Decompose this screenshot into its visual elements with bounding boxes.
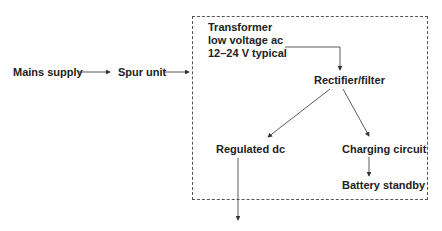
mains-supply-label: Mains supply xyxy=(13,66,83,78)
battery-standby-label: Battery standby xyxy=(342,179,425,191)
spur-unit-label: Spur unit xyxy=(118,66,166,78)
rectifier-filter-label: Rectifier/filter xyxy=(314,74,385,86)
regulated-dc-label: Regulated dc xyxy=(216,143,285,155)
transformer-label-line3: 12–24 V typical xyxy=(208,47,287,59)
transformer-label-line1: Transformer xyxy=(208,21,272,33)
transformer-label-line2: low voltage ac xyxy=(208,34,283,46)
charging-circuit-label: Charging circuit xyxy=(342,143,426,155)
arrow-rectifier-to-charging xyxy=(343,89,369,136)
arrow-rectifier-to-regulated xyxy=(268,89,330,137)
arrow-transformer-to-rectifier xyxy=(285,47,340,70)
